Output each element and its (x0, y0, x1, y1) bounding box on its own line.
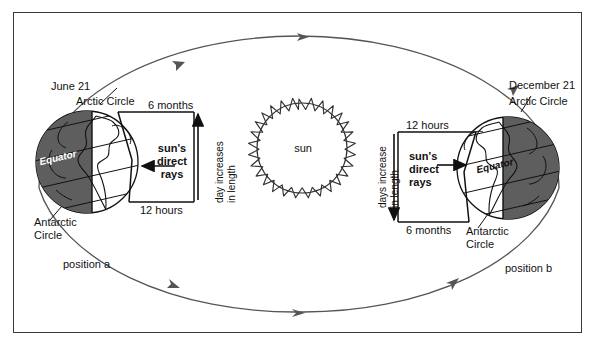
box-b-bottom-label: 6 months (406, 224, 451, 237)
day-increases-label-a-line2: in length (226, 165, 238, 203)
sun-label: sun (282, 142, 324, 155)
box-a-top-label: 6 months (148, 99, 193, 112)
sun-rays-label-b-line1: sun's (409, 150, 437, 163)
diagram-canvas: June 21 Arctic Circle Antarctic Circle E… (0, 0, 598, 350)
sun-rays-label-a-line3: rays (150, 168, 194, 181)
antarctic-circle-label-a-line2: Circle (34, 229, 62, 242)
box-a-bottom-label: 12 hours (140, 204, 183, 217)
sun-rays-label-a-line1: sun's (150, 142, 194, 155)
antarctic-circle-label-b-line2: Circle (466, 238, 494, 251)
position-label-a: position a (63, 258, 110, 271)
arctic-circle-label-b: Arctic Circle (509, 95, 568, 108)
day-increases-label-a-line1: day increases (214, 141, 226, 203)
arctic-circle-label-a: Arctic Circle (76, 95, 135, 108)
sun-rays-label-b-line2: direct (409, 163, 439, 176)
antarctic-circle-label-a-line1: Antarctic (34, 216, 77, 229)
diagram-vector-layer (0, 0, 598, 350)
box-b-top-label: 12 hours (406, 119, 449, 132)
antarctic-circle-label-b-line1: Antarctic (466, 225, 509, 238)
sun-rays-label-a-line2: direct (150, 155, 194, 168)
date-label-december: December 21 (509, 79, 575, 92)
position-label-b: position b (505, 262, 552, 275)
date-label-june: June 21 (51, 80, 90, 93)
days-increase-label-b-line2: in length (389, 170, 401, 208)
sun-rays-label-b-line3: rays (409, 176, 432, 189)
days-increase-label-b-line1: days increase (377, 146, 389, 208)
